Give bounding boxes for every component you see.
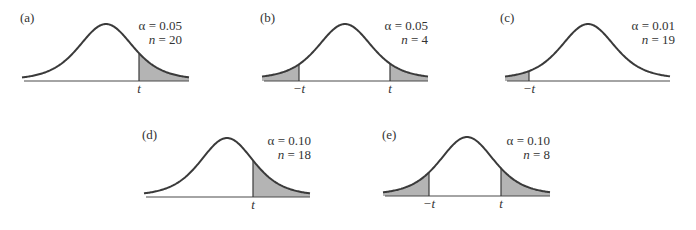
sample-size: n = 20 (149, 32, 182, 47)
t-distribution-figure: t(a)α = 0.05n = 20−tt(b)α = 0.05n = 4−t(… (0, 0, 696, 230)
panel-b: −tt(b)α = 0.05n = 4 (260, 10, 428, 96)
panel-label: (b) (260, 10, 275, 25)
panel-c: −t(c)α = 0.01n = 19 (500, 10, 675, 96)
sample-size: n = 4 (401, 32, 428, 47)
panel-d: t(d)α = 0.10n = 18 (142, 127, 311, 212)
alpha-value: α = 0.01 (632, 18, 675, 33)
critical-value-label: t (388, 81, 392, 96)
critical-value-label: −t (293, 81, 306, 96)
critical-value-label: t (499, 196, 503, 211)
panel-a: t(a)α = 0.05n = 20 (20, 10, 189, 96)
panel-e: −tt(e)α = 0.10n = 8 (382, 127, 550, 211)
alpha-value: α = 0.10 (268, 133, 311, 148)
critical-value-label: t (137, 81, 141, 96)
panel-label: (d) (142, 127, 157, 142)
sample-size: n = 18 (278, 147, 311, 162)
sample-size: n = 8 (523, 147, 550, 162)
critical-value-label: −t (523, 81, 536, 96)
critical-value-label: t (251, 197, 255, 212)
panel-label: (c) (500, 10, 514, 25)
panel-label: (e) (382, 127, 396, 142)
alpha-value: α = 0.10 (507, 133, 550, 148)
critical-value-label: −t (423, 196, 436, 211)
alpha-value: α = 0.05 (139, 18, 182, 33)
rejection-region (383, 172, 429, 196)
sample-size: n = 19 (642, 32, 675, 47)
panel-label: (a) (20, 10, 34, 25)
alpha-value: α = 0.05 (385, 18, 428, 33)
